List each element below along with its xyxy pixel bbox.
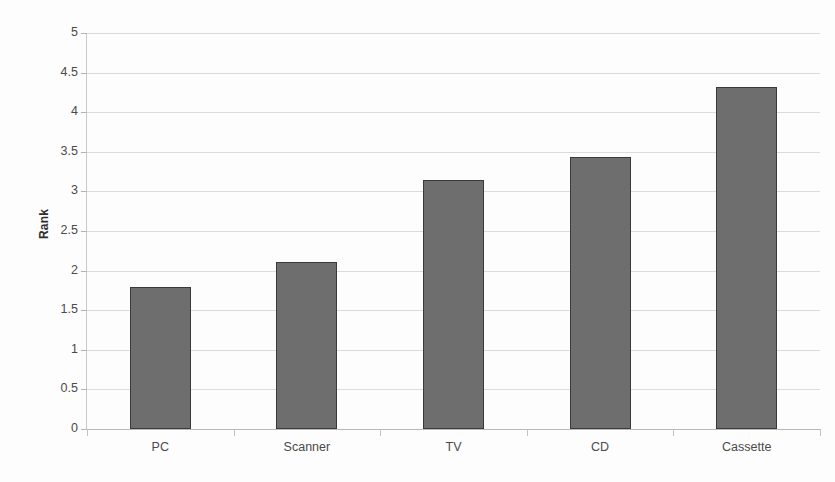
y-axis-tick-label: 2.5 xyxy=(12,224,78,237)
gridline xyxy=(87,429,820,430)
y-axis-tick-label: 3.5 xyxy=(12,145,78,158)
y-axis-tick xyxy=(81,73,87,74)
bar-scanner[interactable] xyxy=(276,262,337,429)
x-axis-separator-tick xyxy=(820,429,821,436)
y-axis-tick-label: 1.5 xyxy=(12,303,78,316)
y-axis-tick-label: 0.5 xyxy=(12,382,78,395)
y-axis-tick xyxy=(81,112,87,113)
y-axis-tick-label: 4 xyxy=(12,105,78,118)
plot-area xyxy=(87,33,820,429)
bar-pc[interactable] xyxy=(130,287,191,429)
bar-tv[interactable] xyxy=(423,180,484,429)
x-axis-tick-label: Scanner xyxy=(247,441,367,454)
y-axis-tick xyxy=(81,310,87,311)
x-axis-tick-label: TV xyxy=(394,441,514,454)
y-axis-tick xyxy=(81,191,87,192)
x-axis-tick-label: Cassette xyxy=(687,441,807,454)
y-axis-tick xyxy=(81,350,87,351)
y-axis-tick xyxy=(81,231,87,232)
y-axis-tick xyxy=(81,389,87,390)
x-axis-separator-tick xyxy=(673,429,674,436)
bar-chart-figure: Rank 54.543.532.521.510.50 PCScannerTVCD… xyxy=(0,0,835,482)
gridline xyxy=(87,152,820,153)
x-axis-tick-label: PC xyxy=(100,441,220,454)
y-axis-tick-label: 2 xyxy=(12,264,78,277)
gridline xyxy=(87,73,820,74)
y-axis-tick-label: 5 xyxy=(12,26,78,39)
y-axis-tick-label: 3 xyxy=(12,184,78,197)
gridline xyxy=(87,33,820,34)
x-axis-separator-tick xyxy=(234,429,235,436)
y-axis-tick-labels: 54.543.532.521.510.50 xyxy=(6,0,78,482)
x-axis-separator-tick xyxy=(87,429,88,436)
x-axis-tick-label: CD xyxy=(540,441,660,454)
x-axis-separator-tick xyxy=(527,429,528,436)
x-axis-separator-tick xyxy=(380,429,381,436)
y-axis-tick-label: 0 xyxy=(12,422,78,435)
y-axis-tick-label: 1 xyxy=(12,343,78,356)
gridline xyxy=(87,112,820,113)
bar-cd[interactable] xyxy=(570,157,631,429)
bar-cassette[interactable] xyxy=(716,87,777,429)
y-axis-tick xyxy=(81,271,87,272)
y-axis-tick xyxy=(81,152,87,153)
y-axis-tick xyxy=(81,33,87,34)
y-axis-tick-label: 4.5 xyxy=(12,66,78,79)
